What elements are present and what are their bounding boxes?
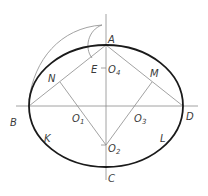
label-O4: O4 [108, 64, 120, 77]
figure-caption [0, 186, 208, 196]
label-L: L [160, 133, 166, 144]
label-N: N [48, 73, 56, 84]
construction-arc-small [88, 25, 102, 58]
label-O3: O3 [134, 113, 146, 126]
label-A: A [107, 34, 115, 45]
bisector-M-O2 [106, 82, 152, 145]
label-O2: O2 [108, 143, 121, 156]
label-B: B [10, 117, 17, 128]
label-O1: O1 [72, 113, 84, 126]
line-AB [29, 45, 106, 106]
label-C: C [108, 173, 115, 184]
label-E: E [91, 64, 98, 75]
construction-arc-large [29, 25, 102, 100]
label-K: K [44, 133, 52, 144]
label-M: M [150, 68, 159, 79]
label-D: D [186, 111, 194, 122]
ellipse-construction-figure: A B C D E N M K L O1 O3 O2 O4 [0, 0, 208, 196]
bisector-N-O2 [60, 82, 106, 145]
